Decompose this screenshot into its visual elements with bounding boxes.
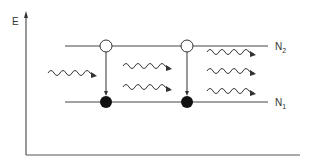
ground-atom-icon bbox=[181, 96, 193, 108]
photon-arrow-icon bbox=[166, 86, 172, 92]
photon-arrow-icon bbox=[250, 51, 256, 57]
photon-arrow-icon bbox=[166, 65, 172, 71]
arrow-head-icon bbox=[104, 91, 108, 96]
energy-axis-label: E bbox=[12, 16, 19, 27]
incoming-photon bbox=[48, 71, 97, 79]
photon-wave-icon bbox=[207, 69, 254, 74]
photon-wave-icon bbox=[123, 85, 170, 90]
ground-atom-icon bbox=[100, 96, 112, 108]
photon-arrow-icon bbox=[91, 72, 97, 78]
excited-atom-icon bbox=[181, 40, 193, 52]
axis-arrow-icon bbox=[24, 11, 28, 18]
photon-wave-icon bbox=[207, 89, 254, 94]
photon-arrow-icon bbox=[250, 90, 256, 96]
energy-levels: N2 N1 bbox=[65, 41, 286, 110]
axes: E bbox=[12, 11, 300, 155]
transition-1 bbox=[100, 40, 112, 108]
excited-atom-icon bbox=[100, 40, 112, 52]
photon-wave-icon bbox=[123, 64, 170, 69]
stimulated-emission-diagram: E N2 N1 bbox=[0, 0, 309, 162]
middle-photons bbox=[123, 64, 172, 93]
photon-wave-icon bbox=[48, 71, 95, 76]
level-n1-label: N1 bbox=[275, 97, 286, 110]
photon-wave-icon bbox=[207, 50, 254, 55]
photon-arrow-icon bbox=[250, 70, 256, 76]
level-n2-label: N2 bbox=[275, 41, 286, 54]
transition-2 bbox=[181, 40, 193, 108]
arrow-head-icon bbox=[185, 91, 189, 96]
outgoing-photons bbox=[207, 50, 256, 97]
